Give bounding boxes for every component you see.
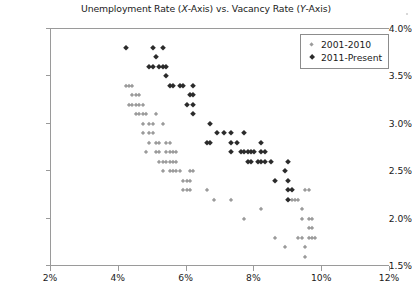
data-point: [123, 45, 129, 51]
y-tick-label: 3.5%: [368, 70, 412, 81]
data-point: [306, 188, 310, 192]
x-tick-mark: [389, 266, 390, 271]
x-tick-mark: [253, 266, 254, 271]
data-point: [303, 254, 307, 258]
data-point: [184, 102, 190, 108]
y-tick-label: 2.0%: [368, 212, 412, 223]
diamond-marker-icon: [306, 55, 318, 59]
data-point: [234, 140, 240, 146]
x-tick-label: 12%: [369, 272, 409, 283]
data-point: [289, 187, 295, 193]
chart-title-part-b: -Axis) vs. Vacancy Rate (: [188, 3, 300, 14]
data-point: [150, 122, 154, 126]
data-point: [157, 150, 161, 154]
legend-label-new: 2011-Present: [318, 52, 382, 63]
data-point: [140, 122, 144, 126]
data-point: [241, 130, 247, 136]
y-tick-label: 2.5%: [368, 165, 412, 176]
data-point: [157, 141, 161, 145]
diamond-marker-icon: [306, 43, 318, 46]
data-point: [188, 188, 192, 192]
data-point: [174, 160, 178, 164]
data-point: [190, 83, 196, 89]
data-point: [258, 140, 264, 146]
data-point: [140, 103, 144, 107]
y-tick-mark: [46, 28, 51, 29]
data-point: [144, 112, 148, 116]
data-point: [190, 111, 196, 117]
data-point: [248, 159, 254, 165]
data-point: [140, 131, 144, 135]
data-point: [207, 140, 213, 146]
data-point: [130, 84, 134, 88]
data-point: [296, 197, 300, 201]
data-point: [251, 149, 257, 155]
data-point: [161, 122, 165, 126]
legend-item-2001-2010[interactable]: 2001-2010: [306, 38, 382, 51]
data-point: [190, 102, 196, 108]
data-point: [153, 54, 159, 60]
x-tick-mark: [186, 266, 187, 271]
data-point: [272, 178, 278, 184]
x-axis-line: [50, 265, 389, 266]
x-tick-mark: [321, 266, 322, 271]
y-tick-mark: [46, 75, 51, 76]
data-point: [310, 226, 314, 230]
data-point: [300, 235, 304, 239]
data-point: [144, 150, 148, 154]
data-point: [207, 121, 213, 127]
data-point: [178, 169, 182, 173]
data-point: [313, 235, 317, 239]
data-point: [228, 130, 234, 136]
data-point: [167, 141, 171, 145]
data-point: [154, 112, 158, 116]
data-point: [150, 131, 154, 135]
data-point: [163, 73, 169, 79]
y-tick-label: 4.0%: [368, 23, 412, 34]
corner-speck: [406, 13, 408, 15]
data-point: [310, 216, 314, 220]
chart-title-part-c: -Axis): [306, 3, 331, 14]
y-tick-mark: [46, 123, 51, 124]
data-point: [221, 130, 227, 136]
data-point: [160, 45, 166, 51]
chart-title-part-a: Unemployment Rate (: [81, 3, 181, 14]
data-point: [137, 93, 141, 97]
x-tick-label: 6%: [166, 272, 206, 283]
x-tick-label: 8%: [233, 272, 273, 283]
data-point: [285, 178, 291, 184]
y-tick-mark: [46, 170, 51, 171]
data-point: [285, 159, 291, 165]
data-point: [147, 141, 151, 145]
scatter-chart: Unemployment Rate (X-Axis) vs. Vacancy R…: [0, 0, 412, 296]
data-point: [228, 197, 232, 201]
x-tick-label: 10%: [301, 272, 341, 283]
data-point: [214, 130, 220, 136]
x-tick-label: 4%: [98, 272, 138, 283]
data-point: [174, 150, 178, 154]
y-tick-label: 3.0%: [368, 117, 412, 128]
data-point: [150, 45, 156, 51]
x-tick-label: 2%: [30, 272, 70, 283]
data-point: [212, 197, 216, 201]
data-point: [161, 169, 165, 173]
data-point: [242, 216, 246, 220]
legend: 2001-2010 2011-Present: [300, 34, 389, 69]
data-point: [282, 168, 288, 174]
data-point: [150, 64, 156, 70]
data-point: [283, 245, 287, 249]
x-tick-mark: [50, 266, 51, 271]
y-tick-mark: [46, 218, 51, 219]
chart-title: Unemployment Rate (X-Axis) vs. Vacancy R…: [0, 3, 412, 14]
legend-item-2011-present[interactable]: 2011-Present: [306, 51, 382, 64]
data-point: [273, 235, 277, 239]
data-point: [228, 149, 234, 155]
data-point: [180, 83, 186, 89]
x-tick-mark: [118, 266, 119, 271]
legend-label-old: 2001-2010: [318, 39, 371, 50]
data-point: [205, 188, 209, 192]
data-point: [188, 178, 192, 182]
data-point: [190, 92, 196, 98]
data-point: [262, 149, 268, 155]
data-point: [259, 207, 263, 211]
